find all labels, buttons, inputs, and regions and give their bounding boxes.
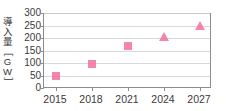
- gridline: [44, 38, 210, 39]
- data-point-square: [124, 42, 132, 50]
- x-axis-tick: [164, 87, 165, 91]
- y-axis-tick: [40, 63, 44, 64]
- x-axis-tick-label: 2015: [35, 94, 75, 105]
- x-axis-tick-label: 2027: [179, 94, 219, 105]
- x-axis-tick: [128, 87, 129, 91]
- gridline: [44, 26, 210, 27]
- gridline: [44, 51, 210, 52]
- y-axis-tick-label: 200: [13, 33, 41, 43]
- y-axis-tick-label: 100: [13, 58, 41, 68]
- y-axis-title-char: W: [3, 67, 12, 77]
- y-axis-tick: [40, 13, 44, 14]
- y-axis-title-char: ［: [3, 47, 13, 57]
- y-axis-tick: [40, 88, 44, 89]
- data-point-square: [88, 60, 96, 68]
- x-axis-tick: [56, 87, 57, 91]
- y-axis-title-char: ］: [3, 77, 13, 87]
- gridline: [44, 63, 210, 64]
- data-point-square: [52, 72, 60, 80]
- gridline: [44, 13, 210, 14]
- y-axis-tick: [40, 51, 44, 52]
- gridline: [44, 76, 210, 77]
- plot-area: [43, 13, 211, 88]
- y-axis-tick: [40, 76, 44, 77]
- y-axis-tick-label: 300: [13, 8, 41, 18]
- x-axis-tick-label: 2024: [143, 94, 183, 105]
- x-axis-tick: [92, 87, 93, 91]
- data-point-triangle: [159, 32, 169, 41]
- x-axis-tick: [200, 87, 201, 91]
- x-axis-tick-label: 2021: [107, 94, 147, 105]
- y-axis-tick-label: 150: [13, 46, 41, 56]
- y-axis-tick: [40, 26, 44, 27]
- y-axis-tick-label: 250: [13, 21, 41, 31]
- y-axis-tick: [40, 38, 44, 39]
- y-axis-tick-label: 50: [13, 71, 41, 81]
- chart-container: 導 入 量 ［ G W ］ 050100150200250300 2015201…: [0, 0, 226, 111]
- data-point-triangle: [195, 21, 205, 30]
- x-axis-tick-label: 2018: [71, 94, 111, 105]
- y-axis-tick-label: 0: [13, 83, 41, 93]
- y-axis-title-char: 量: [3, 37, 13, 47]
